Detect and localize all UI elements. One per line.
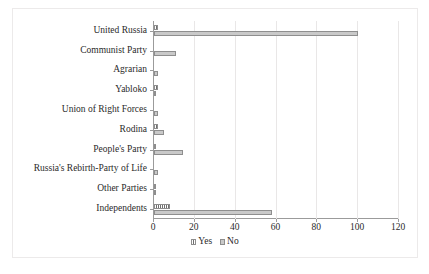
legend-item-no: No bbox=[220, 237, 239, 247]
x-axis-tick-label: 40 bbox=[230, 223, 240, 233]
y-axis-tick bbox=[150, 31, 153, 32]
chart-figure: United RussiaCommunist PartyAgrarianYabl… bbox=[12, 8, 418, 258]
bar-group: Communist Party bbox=[153, 41, 398, 61]
y-axis-tick bbox=[150, 110, 153, 111]
y-axis-tick bbox=[150, 90, 153, 91]
bar-group: Agrarian bbox=[153, 61, 398, 81]
bar-group: Other Parties bbox=[153, 179, 398, 199]
bar-no bbox=[154, 71, 158, 76]
bar-group: Union of Right Forces bbox=[153, 100, 398, 120]
chart-legend: Yes No bbox=[13, 237, 417, 247]
y-axis-category-label: Communist Party bbox=[80, 46, 147, 56]
y-axis-category-label: Other Parties bbox=[97, 185, 147, 195]
bar-yes bbox=[154, 85, 158, 90]
y-axis-category-label: United Russia bbox=[93, 26, 147, 36]
y-axis-category-label: Russia's Rebirth-Party of Life bbox=[34, 165, 147, 175]
y-axis-category-label: Union of Right Forces bbox=[62, 105, 147, 115]
plot-area: United RussiaCommunist PartyAgrarianYabl… bbox=[153, 21, 398, 219]
bar-group: People's Party bbox=[153, 140, 398, 160]
legend-item-yes: Yes bbox=[191, 237, 212, 247]
bar-group: Yabloko bbox=[153, 80, 398, 100]
bar-no bbox=[154, 150, 183, 155]
bar-group: Independents bbox=[153, 199, 398, 219]
bar-no bbox=[154, 91, 156, 96]
bar-group: Russia's Rebirth-Party of Life bbox=[153, 160, 398, 180]
bar-no bbox=[154, 130, 164, 135]
legend-swatch-no bbox=[220, 239, 225, 245]
y-axis-tick bbox=[150, 150, 153, 151]
y-axis-category-label: Independents bbox=[96, 204, 147, 214]
bar-yes bbox=[154, 184, 156, 189]
bar-group: Rodina bbox=[153, 120, 398, 140]
y-axis-category-label: People's Party bbox=[93, 145, 147, 155]
bar-group: United Russia bbox=[153, 21, 398, 41]
y-axis-tick bbox=[150, 209, 153, 210]
y-axis-tick bbox=[150, 189, 153, 190]
y-axis-tick bbox=[150, 51, 153, 52]
bar-no bbox=[154, 170, 158, 175]
bar-no bbox=[154, 111, 158, 116]
bar-yes bbox=[154, 144, 156, 149]
bar-no bbox=[154, 51, 176, 56]
bar-yes bbox=[154, 124, 158, 129]
x-axis-tick-label: 80 bbox=[312, 223, 322, 233]
x-axis-tick-label: 60 bbox=[271, 223, 281, 233]
x-axis-tick-label: 100 bbox=[350, 223, 364, 233]
y-axis-category-label: Rodina bbox=[120, 125, 147, 135]
y-axis-tick bbox=[150, 130, 153, 131]
legend-swatch-yes bbox=[191, 239, 196, 245]
x-axis-tick-label: 20 bbox=[189, 223, 199, 233]
bar-yes bbox=[154, 25, 158, 30]
x-axis-tick-label: 120 bbox=[391, 223, 405, 233]
bar-no bbox=[154, 210, 272, 215]
legend-label-yes: Yes bbox=[198, 237, 212, 247]
x-axis-tick-label: 0 bbox=[151, 223, 156, 233]
bar-no bbox=[154, 190, 156, 195]
gridline bbox=[398, 21, 399, 219]
bar-yes bbox=[154, 204, 170, 209]
bar-no bbox=[154, 31, 358, 36]
y-axis-category-label: Agrarian bbox=[113, 66, 147, 76]
y-axis-tick bbox=[150, 70, 153, 71]
y-axis-category-label: Yabloko bbox=[115, 86, 147, 96]
x-axis-tick-labels: 020406080100120 bbox=[153, 219, 398, 235]
legend-label-no: No bbox=[227, 237, 239, 247]
y-axis-tick bbox=[150, 169, 153, 170]
